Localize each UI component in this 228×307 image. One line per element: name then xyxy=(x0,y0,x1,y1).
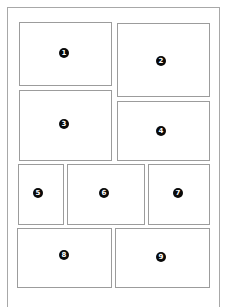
panel-number-badge: 9 xyxy=(156,252,166,262)
panel-number-badge: 2 xyxy=(156,56,166,66)
panel-number-badge: 7 xyxy=(173,188,183,198)
panel-number-badge: 1 xyxy=(59,48,69,58)
panel-number-badge: 4 xyxy=(156,126,166,136)
panel-number-badge: 5 xyxy=(33,188,43,198)
panel-number-badge: 8 xyxy=(59,250,69,260)
panel-number-badge: 6 xyxy=(99,188,109,198)
panel-number-badge: 3 xyxy=(59,119,69,129)
